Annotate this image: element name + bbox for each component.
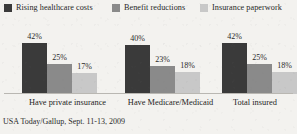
bar-value-label: 42% — [27, 32, 42, 41]
bar-wrap: 42% — [22, 24, 47, 94]
bar-rising-healthcare-costs — [222, 43, 247, 94]
chart-legend: Rising healthcare costs Benefit reductio… — [0, 2, 297, 16]
legend-swatch-icon — [112, 4, 120, 12]
axis-baseline — [4, 93, 293, 94]
legend-item-insurance-paperwork: Insurance paperwork — [200, 2, 282, 14]
legend-label: Insurance paperwork — [212, 3, 282, 13]
bar-value-label: 25% — [252, 53, 267, 62]
category-label-have-medicare-medicaid: Have Medicare/Medicaid — [113, 97, 228, 109]
bar-wrap: 18% — [272, 24, 297, 94]
category-label-total-insured: Total insured — [215, 97, 295, 109]
legend-label: Rising healthcare costs — [16, 3, 93, 13]
bar-benefit-reductions — [247, 64, 272, 94]
bar-value-label: 18% — [277, 61, 292, 70]
bar-wrap: 42% — [222, 24, 247, 94]
bar-value-label: 17% — [77, 62, 92, 71]
bar-value-label: 23% — [155, 55, 170, 64]
source-note: USA Today/Gallup, Sept. 11-13, 2009 — [3, 117, 125, 127]
bar-insurance-paperwork — [72, 73, 97, 94]
legend-swatch-icon — [200, 4, 208, 12]
legend-swatch-icon — [4, 4, 12, 12]
category-label-have-private-insurance: Have private insurance — [10, 97, 125, 109]
bar-value-label: 40% — [130, 34, 145, 43]
bar-value-label: 18% — [180, 61, 195, 70]
bar-rising-healthcare-costs — [22, 43, 47, 94]
bar-wrap: 18% — [175, 24, 200, 94]
bar-insurance-paperwork — [272, 72, 297, 94]
bar-wrap: 17% — [72, 24, 97, 94]
bar-insurance-paperwork — [175, 72, 200, 94]
chart-figure: Rising healthcare costs Benefit reductio… — [0, 0, 297, 134]
bar-rising-healthcare-costs — [125, 45, 150, 94]
bar-wrap: 25% — [47, 24, 72, 94]
category-axis-labels: Have private insurance Have Medicare/Med… — [0, 97, 297, 110]
legend-label: Benefit reductions — [124, 3, 185, 13]
bar-wrap: 40% — [125, 24, 150, 94]
bar-value-label: 25% — [52, 53, 67, 62]
bar-benefit-reductions — [150, 66, 175, 94]
bar-value-label: 42% — [227, 32, 242, 41]
bar-benefit-reductions — [47, 64, 72, 94]
bar-wrap: 25% — [247, 24, 272, 94]
bar-wrap: 23% — [150, 24, 175, 94]
legend-item-rising-healthcare-costs: Rising healthcare costs — [4, 2, 93, 14]
legend-item-benefit-reductions: Benefit reductions — [112, 2, 185, 14]
chart-plot-area: 42% 25% 17% 40% — [0, 24, 297, 94]
